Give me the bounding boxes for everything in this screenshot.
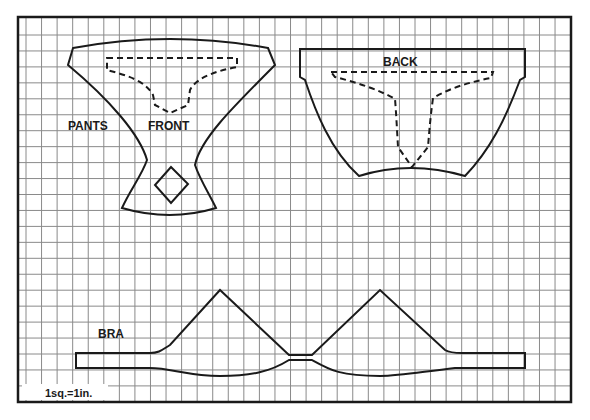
bra-piece — [76, 290, 525, 376]
scale-note: 1sq.=1in. — [45, 387, 92, 399]
bra-outline — [76, 290, 525, 376]
pants-front-lining-dashed — [107, 58, 237, 113]
pattern-diagram: PANTS FRONT BACK BRA 1sq.=1in. — [0, 0, 590, 420]
label-front: FRONT — [148, 119, 190, 133]
label-pants: PANTS — [68, 119, 108, 133]
pants-back-lining-dashed — [331, 72, 493, 167]
grid-lines — [18, 17, 571, 402]
grid-border — [18, 17, 571, 402]
label-back: BACK — [383, 55, 418, 69]
label-bra: BRA — [98, 327, 124, 341]
pants-front-diamond — [155, 167, 188, 203]
